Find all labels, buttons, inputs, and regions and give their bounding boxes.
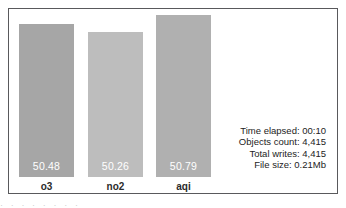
stat-file-size: File size: 0.21Mb <box>239 159 326 171</box>
bar-value-aqi: 50.79 <box>156 160 211 172</box>
bar-aqi[interactable]: 50.79 <box>156 15 211 177</box>
bar-value-o3: 50.48 <box>19 160 74 172</box>
stats-summary: Time elapsed: 00:10 Objects count: 4,415… <box>239 125 326 171</box>
bar-o3[interactable]: 50.48 <box>19 24 74 177</box>
page-cutoff-text: · · · · · · · · <box>0 200 346 208</box>
bar-value-no2: 50.26 <box>88 160 143 172</box>
bar-label-no2: no2 <box>88 181 143 193</box>
bar-no2[interactable]: 50.26 <box>88 32 143 177</box>
stat-total-writes: Total writes: 4,415 <box>239 148 326 160</box>
stat-time-elapsed: Time elapsed: 00:10 <box>239 125 326 137</box>
stat-objects-count: Objects count: 4,415 <box>239 136 326 148</box>
bar-chart-plot-area: 50.48 o3 50.26 no2 50.79 aqi <box>9 9 217 195</box>
bar-label-aqi: aqi <box>156 181 211 193</box>
bar-label-o3: o3 <box>19 181 74 193</box>
chart-panel: 50.48 o3 50.26 no2 50.79 aqi Time elapse… <box>8 8 338 194</box>
